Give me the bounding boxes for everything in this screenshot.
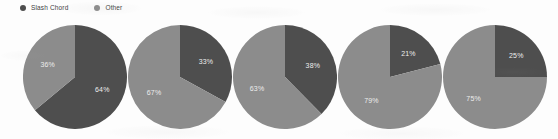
pie-slice-label: 36% [40,61,55,68]
pie-slice-label: 38% [306,62,321,69]
pie-chart-3[interactable]: 38%63% [233,25,337,129]
pie-slice-label: 79% [364,97,379,104]
pie-chart-4[interactable]: 21%79% [338,25,442,129]
pie-slice-slash-chord[interactable] [495,25,547,77]
pie-chart-1[interactable]: 64%36% [23,25,127,129]
legend-item-other[interactable]: Other [94,5,122,12]
pie-chart-5[interactable]: 25%75% [443,25,547,129]
pie-slice-label: 64% [95,86,110,93]
circle-swatch-icon [20,5,26,11]
pie-slice-label: 67% [147,89,162,96]
pie-chart-row: 64%36%33%67%38%63%21%79%25%75% [0,0,558,139]
chart-legend: Slash Chord Other [20,5,122,12]
pie-slice-label: 21% [401,50,416,57]
pie-slice-label: 25% [509,52,524,59]
legend-item-slash-chord[interactable]: Slash Chord [20,5,68,12]
pie-chart-2[interactable]: 33%67% [128,25,232,129]
pie-slice-label: 63% [250,85,265,92]
pie-slice-label: 75% [466,95,481,102]
pie-slice-label: 33% [199,58,214,65]
legend-item-label: Slash Chord [31,5,68,12]
circle-swatch-icon [94,5,100,11]
legend-item-label: Other [105,5,122,12]
